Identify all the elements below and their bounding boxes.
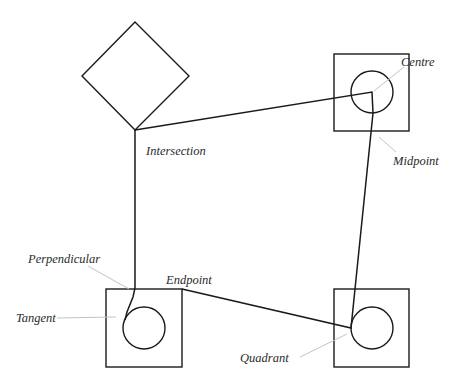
- leader-tangent: [57, 317, 116, 318]
- label-tangent: Tangent: [16, 311, 56, 325]
- bottom-right-square: [334, 289, 409, 367]
- snap-path-left: [125, 130, 135, 320]
- label-midpoint: Midpoint: [392, 154, 439, 168]
- bottom-left-square: [106, 289, 182, 367]
- leader-centre: [374, 67, 404, 91]
- bottom-right-circle: [351, 307, 393, 349]
- snap-path-upper: [135, 92, 373, 328]
- leader-midpoint: [379, 137, 396, 152]
- label-quadrant: Quadrant: [240, 351, 289, 365]
- label-perpendicular: Perpendicular: [27, 252, 100, 266]
- label-centre: Centre: [401, 55, 435, 69]
- label-intersection: Intersection: [145, 144, 206, 158]
- label-endpoint: Endpoint: [165, 273, 212, 287]
- diamond-shape: [82, 22, 189, 130]
- leader-quadrant: [300, 334, 347, 357]
- bottom-left-circle: [123, 307, 165, 349]
- snap-diagram: Centre Midpoint Intersection Perpendicul…: [0, 0, 472, 386]
- leader-perpendicular: [88, 266, 129, 289]
